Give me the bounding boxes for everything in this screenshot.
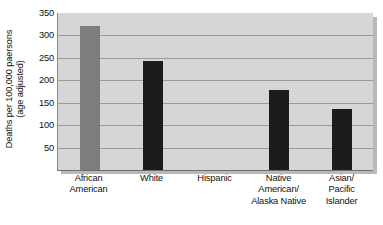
y-axis-tick-label: 100	[26, 121, 54, 130]
x-axis-category-label-line: Native	[247, 173, 310, 184]
x-axis-category-label-line: Pacific	[310, 184, 373, 195]
gridline	[58, 103, 373, 104]
y-axis-tick-label: 250	[26, 54, 54, 63]
x-axis-category-label-line: American/	[247, 184, 310, 195]
x-axis-category-label: White	[120, 173, 183, 184]
bar	[269, 90, 289, 170]
bar	[143, 61, 163, 170]
x-axis-category-label: Asian/PacificIslander	[310, 173, 373, 207]
y-axis-tick-label: 350	[26, 9, 54, 18]
gridline	[58, 58, 373, 59]
x-axis-category-label-line: Alaska Native	[247, 196, 310, 207]
y-axis-tick-labels: 35030025020015010050	[26, 0, 54, 180]
x-axis-line	[57, 170, 373, 171]
x-axis-category-label-line: Islander	[310, 196, 373, 207]
gridline	[58, 35, 373, 36]
x-axis-category-label: AfricanAmerican	[57, 173, 120, 196]
x-axis-category-label-line: Asian/	[310, 173, 373, 184]
bar-chart: Deaths per 100,000 paersons (age adjuste…	[0, 0, 383, 225]
y-axis-title-line-2: (age adjusted)	[15, 60, 26, 117]
y-axis-tick-label: 50	[26, 144, 54, 153]
bar	[332, 109, 352, 170]
gridline	[58, 125, 373, 126]
x-axis-category-labels: AfricanAmericanWhiteHispanicNativeAmeric…	[57, 173, 373, 225]
x-axis-category-label-line: White	[120, 173, 183, 184]
gridline	[58, 148, 373, 149]
bar	[80, 26, 100, 170]
x-axis-category-label-line: African	[57, 173, 120, 184]
x-axis-category-label-line: Hispanic	[183, 173, 246, 184]
gridline	[58, 80, 373, 81]
x-axis-category-label-line: American	[57, 184, 120, 195]
y-axis-tick-label: 150	[26, 99, 54, 108]
y-axis-title-line-1: Deaths per 100,000 paersons	[4, 30, 15, 148]
x-axis-category-label: NativeAmerican/Alaska Native	[247, 173, 310, 207]
x-axis-category-label: Hispanic	[183, 173, 246, 184]
y-axis-tick-label: 200	[26, 76, 54, 85]
y-axis-tick-label: 300	[26, 31, 54, 40]
plot-area	[57, 13, 373, 170]
